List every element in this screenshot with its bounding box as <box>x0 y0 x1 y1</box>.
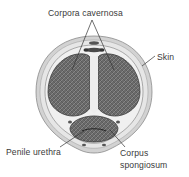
label-penile-urethra: Penile urethra <box>6 147 61 157</box>
label-corpus-spongiosum: Corpus spongiosum <box>120 147 167 171</box>
label-corpora-cavernosa: Corpora cavernosa <box>48 8 123 18</box>
label-corpus-spongiosum-line1: Corpus <box>120 147 167 159</box>
label-corpus-spongiosum-line2: spongiosum <box>120 159 167 171</box>
septum <box>90 56 98 114</box>
corpus-spongiosum <box>70 116 118 142</box>
label-skin: Skin <box>157 52 174 62</box>
